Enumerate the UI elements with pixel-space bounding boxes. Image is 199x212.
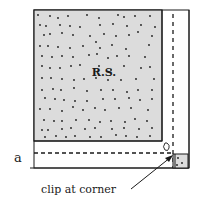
stipple-dot xyxy=(89,35,91,37)
stipple-dot xyxy=(72,56,74,58)
stipple-dot xyxy=(72,106,74,108)
stipple-dot xyxy=(41,89,43,91)
stipple-dot xyxy=(176,164,178,166)
stipple-dot xyxy=(54,98,56,100)
stipple-dot xyxy=(123,16,125,18)
stipple-dot xyxy=(112,23,114,25)
seam-label: a xyxy=(14,150,22,165)
stipple-dot xyxy=(45,25,47,27)
stipple-dot xyxy=(151,89,153,91)
stipple-dot xyxy=(44,97,46,99)
stipple-dot xyxy=(138,128,140,130)
stipple-dot xyxy=(79,64,81,66)
stipple-dot xyxy=(118,107,120,109)
stipple-dot xyxy=(39,45,41,47)
stipple-dot xyxy=(95,41,97,43)
stipple-dot xyxy=(79,26,81,28)
stipple-dot xyxy=(89,136,91,138)
stipple-dot xyxy=(41,65,43,67)
stipple-dot xyxy=(59,67,61,69)
stipple-dot xyxy=(86,14,88,16)
stipple-dot xyxy=(126,91,128,93)
stipple-dot xyxy=(151,127,153,129)
stipple-dot xyxy=(59,24,61,26)
stipple-dot xyxy=(100,136,102,138)
center-label: R.S. xyxy=(92,66,116,79)
stipple-dot xyxy=(181,162,183,164)
stipple-dot xyxy=(43,119,45,121)
stipple-dot xyxy=(147,109,149,111)
stipple-dot xyxy=(52,88,54,90)
stipple-dot xyxy=(70,127,72,129)
stipple-dot xyxy=(125,48,127,50)
stipple-dot xyxy=(154,26,156,28)
stipple-dot xyxy=(115,134,117,136)
stipple-dot xyxy=(57,46,59,48)
stipple-dot xyxy=(139,99,141,101)
stipple-dot xyxy=(100,89,102,91)
stipple-dot xyxy=(123,127,125,129)
callout-label: clip at corner xyxy=(41,183,117,196)
stipple-dot xyxy=(94,127,96,129)
stipple-dot xyxy=(61,32,63,34)
stipple-dot xyxy=(125,135,127,137)
stipple-dot xyxy=(73,79,75,81)
stipple-dot xyxy=(70,65,72,67)
stipple-dot xyxy=(69,47,71,49)
stipple-dot xyxy=(149,15,151,17)
stipple-dot xyxy=(41,129,43,131)
stipple-dot xyxy=(61,128,63,130)
stipple-dot xyxy=(144,56,146,58)
stipple-dot xyxy=(107,79,109,81)
stipple-dot xyxy=(99,47,101,49)
stipple-dot xyxy=(67,15,69,17)
stipple-dot xyxy=(74,100,76,102)
stipple-dot xyxy=(37,14,39,16)
stipple-dot xyxy=(153,78,155,80)
stipple-dot xyxy=(82,45,84,47)
stipple-dot xyxy=(41,55,43,57)
stipple-dot xyxy=(51,56,53,58)
stipple-dot xyxy=(134,15,136,17)
stipple-dot xyxy=(82,109,84,111)
stipple-dot xyxy=(149,66,151,68)
stipple-dot xyxy=(128,97,130,99)
stipple-dot xyxy=(49,67,51,69)
stipple-dot xyxy=(61,120,63,122)
stipple-dot xyxy=(116,55,118,57)
stipple-dot xyxy=(112,89,114,91)
stipple-dot xyxy=(49,15,51,17)
stipple-dot xyxy=(57,17,59,19)
stipple-dot xyxy=(55,135,57,137)
stipple-dot xyxy=(39,24,41,26)
stipple-dot xyxy=(146,120,148,122)
stipple-dot xyxy=(140,67,142,69)
stipple-dot xyxy=(65,136,67,138)
stipple-dot xyxy=(63,99,65,101)
stipple-dot xyxy=(130,107,132,109)
stipple-dot xyxy=(117,14,119,16)
stipple-dot xyxy=(128,55,130,57)
stipple-dot xyxy=(94,107,96,109)
stipple-dot xyxy=(151,35,153,37)
stipple-dot xyxy=(73,87,75,89)
stipple-dot xyxy=(99,24,101,26)
stipple-dot xyxy=(72,34,74,36)
stipple-dot xyxy=(75,119,77,121)
stipple-dot xyxy=(148,44,150,46)
stipple-dot xyxy=(74,135,76,137)
stipple-dot xyxy=(140,24,142,26)
stipple-dot xyxy=(126,25,128,27)
stipple-dot xyxy=(134,118,136,120)
stipple-dot xyxy=(120,79,122,81)
stipple-dot xyxy=(50,77,52,79)
stipple-dot xyxy=(99,121,101,123)
stipple-dot xyxy=(124,121,126,123)
stipple-dot xyxy=(110,120,112,122)
stipple-dot xyxy=(128,34,130,36)
stipple-dot xyxy=(137,31,139,33)
stipple-dot xyxy=(44,136,46,138)
stipple-dot xyxy=(53,120,55,122)
stipple-dot xyxy=(49,33,51,35)
stipple-dot xyxy=(43,34,45,36)
